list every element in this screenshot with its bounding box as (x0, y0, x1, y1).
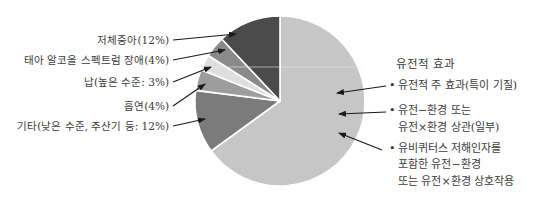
pie-slices (195, 16, 365, 186)
legend-item-3-line-2: 포함한 유전−환경 (398, 158, 481, 171)
legend-bullet-1: • (389, 79, 396, 92)
pie-chart: 저체중아(12%) 태아 알코올 스펙트럼 장애(4%) 납(높은 수준: 3%… (0, 0, 546, 200)
label-low-birth-weight: 저체중아(12%) (97, 34, 169, 46)
legend-item-2-line-2: 유전×환경 상관(일부) (398, 120, 499, 134)
label-smoking: 흡연(4%) (124, 100, 169, 112)
legend-item-1-line-1: 유전적 주 효과(특이 기질) (398, 79, 517, 92)
label-lead: 납(높은 수준: 3%) (84, 76, 169, 88)
label-fasd: 태아 알코올 스펙트럼 장애(4%) (24, 54, 169, 66)
legend-bullet-3: • (389, 142, 396, 155)
legend-item-3-line-3: 또는 유전×환경 상호작용 (398, 175, 514, 188)
label-other: 기타(낮은 수준, 주산기 등: 12%) (17, 120, 169, 132)
legend-bullet-2: • (389, 104, 396, 117)
legend-item-2-line-1: 유전−환경 또는 (398, 104, 471, 117)
legend-item-3-line-1: 유비퀴터스 저해인자를 (398, 141, 502, 155)
legend-title: 유전적 효과 (396, 57, 455, 71)
